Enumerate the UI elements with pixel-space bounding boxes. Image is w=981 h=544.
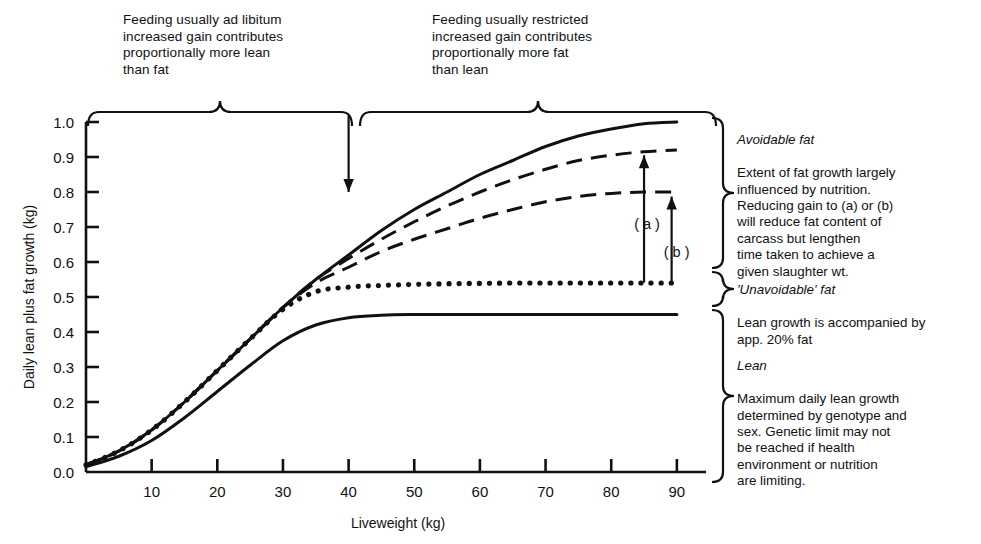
y-tick-label: 0.6: [53, 254, 74, 271]
x-tick-label: 30: [275, 483, 292, 500]
curve-series-3: [86, 283, 677, 465]
y-tick-label: 0.9: [53, 149, 74, 166]
right-brace: [712, 272, 734, 306]
x-tick-label: 20: [209, 483, 226, 500]
chart-canvas: 0.00.10.20.30.40.50.60.70.80.91.01020304…: [0, 0, 981, 544]
data-curves: [86, 122, 677, 467]
x-tick-label: 90: [669, 483, 686, 500]
arrow-a-head: [639, 155, 649, 168]
x-tick-label: 50: [406, 483, 423, 500]
y-tick-label: 1.0: [53, 114, 74, 131]
x-tick-label: 60: [472, 483, 489, 500]
annotation-arrows: ( a )( b ): [343, 116, 689, 283]
y-tick-label: 0.5: [53, 289, 74, 306]
y-tick-label: 0.8: [53, 184, 74, 201]
x-tick-label: 40: [340, 483, 357, 500]
label-marker-b: ( b ): [664, 244, 690, 260]
chart-figure: Feeding usually ad libitum increased gai…: [0, 0, 981, 544]
x-tick-label: 70: [537, 483, 554, 500]
y-tick-label: 0.1: [53, 429, 74, 446]
curve-series-1: [86, 150, 677, 465]
y-tick-label: 0.4: [53, 324, 74, 341]
x-tick-label: 10: [143, 483, 160, 500]
label-marker-a: ( a ): [634, 216, 660, 232]
axis-titles: Liveweight (kg)Daily lean plus fat growt…: [21, 205, 445, 531]
curve-series-0: [86, 122, 677, 465]
split-arrow-head: [343, 179, 353, 192]
right-brace: [712, 118, 734, 268]
braces: [88, 101, 734, 482]
x-axis-title: Liveweight (kg): [351, 515, 445, 531]
y-tick-label: 0.2: [53, 394, 74, 411]
y-tick-label: 0.3: [53, 359, 74, 376]
arrow-b-head: [666, 197, 676, 210]
y-axis-title: Daily lean plus fat growth (kg): [21, 205, 37, 389]
axes: [86, 122, 706, 472]
top-brace: [88, 101, 352, 126]
y-tick-label: 0.7: [53, 219, 74, 236]
curve-series-4: [86, 314, 677, 466]
axis-ticks: [86, 122, 677, 472]
right-brace: [712, 310, 734, 482]
y-tick-label: 0.0: [53, 464, 74, 481]
x-tick-label: 80: [603, 483, 620, 500]
